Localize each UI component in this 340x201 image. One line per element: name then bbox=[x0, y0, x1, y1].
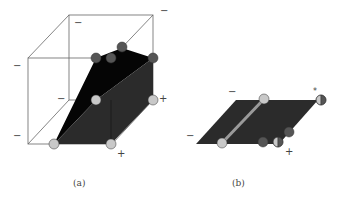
caption-a: (a) bbox=[73, 178, 85, 188]
sign-label: − bbox=[13, 130, 21, 141]
half-node bbox=[273, 137, 283, 147]
dark-node bbox=[258, 137, 268, 147]
sign-label: + bbox=[285, 146, 293, 157]
cube-edge bbox=[28, 15, 69, 58]
dark-node bbox=[148, 53, 158, 63]
sign-label: + bbox=[117, 148, 125, 159]
light-node bbox=[148, 95, 158, 105]
sign-label: − bbox=[13, 60, 21, 71]
sign-label: − bbox=[57, 93, 65, 104]
sign-label: − bbox=[228, 86, 236, 97]
light-node bbox=[106, 139, 116, 149]
dark-node bbox=[284, 127, 294, 137]
figure-canvas: − − − − − + + − − * + bbox=[0, 0, 340, 201]
sign-label: * bbox=[313, 87, 317, 96]
sign-label: − bbox=[160, 5, 168, 16]
dark-node bbox=[106, 53, 116, 63]
dark-node bbox=[91, 53, 101, 63]
half-node bbox=[316, 95, 326, 105]
sign-label: − bbox=[74, 17, 82, 28]
light-node bbox=[259, 94, 269, 104]
sign-label: + bbox=[159, 93, 167, 104]
caption-b: (b) bbox=[232, 178, 245, 188]
light-node bbox=[49, 139, 59, 149]
light-node bbox=[217, 138, 227, 148]
sign-label: − bbox=[186, 130, 194, 141]
light-node bbox=[91, 95, 101, 105]
dark-node bbox=[117, 42, 127, 52]
